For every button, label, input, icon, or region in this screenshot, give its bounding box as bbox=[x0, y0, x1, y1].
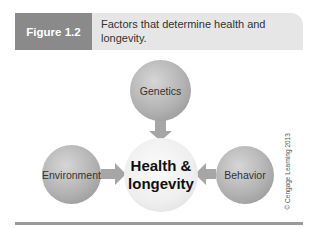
bottom-rule bbox=[15, 222, 303, 225]
node-behavior: Behavior bbox=[216, 146, 274, 204]
center-label-line2: longevity bbox=[128, 175, 194, 193]
node-genetics-label: Genetics bbox=[140, 85, 181, 97]
node-health-longevity: Health & longevity bbox=[124, 138, 198, 212]
node-environment-label: Environment bbox=[42, 169, 101, 181]
node-environment: Environment bbox=[42, 145, 101, 204]
node-behavior-label: Behavior bbox=[224, 169, 265, 181]
node-genetics: Genetics bbox=[130, 60, 191, 121]
center-label-line1: Health & bbox=[131, 157, 192, 175]
arrow-left-icon bbox=[195, 163, 216, 185]
arrow-right-icon bbox=[101, 163, 126, 185]
copyright-credit: © Cengage Learning 2013 bbox=[284, 134, 291, 210]
